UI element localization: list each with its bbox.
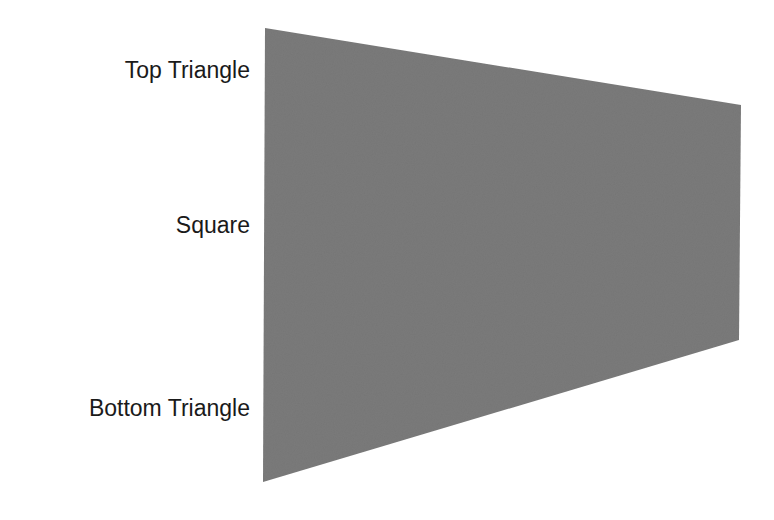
label-square: Square (176, 212, 250, 239)
label-top-triangle: Top Triangle (125, 57, 250, 84)
label-bottom-triangle: Bottom Triangle (89, 395, 250, 422)
trapezoid-polygon (263, 28, 741, 482)
trapezoid-shape (0, 0, 774, 520)
